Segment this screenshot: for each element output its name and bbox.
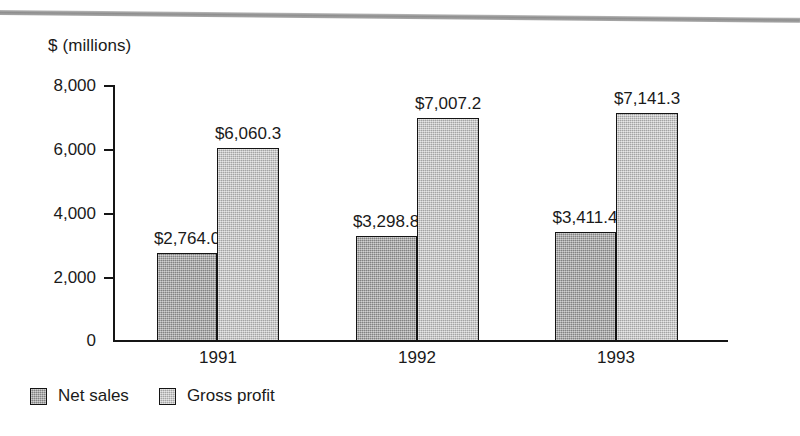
bar-1992-gross-profit[interactable] [417, 118, 479, 341]
bar-1993-gross-profit[interactable] [616, 113, 678, 341]
bar-label-1991-gross-profit: $6,060.3 [188, 124, 308, 144]
y-tick-label-0: 0 [10, 331, 96, 351]
y-tick-label-4000: 4,000 [10, 204, 96, 224]
plot-area: $2,764.0 $6,060.3 $3,298.8 $7,007.2 $3,4… [113, 86, 726, 341]
y-tick-label-6000: 6,000 [10, 140, 96, 160]
x-axis-label-1992: 1992 [357, 348, 477, 368]
bar-1992-net-sales[interactable] [356, 236, 417, 341]
y-tick-label-2000: 2,000 [10, 268, 96, 288]
bar-label-1992-gross-profit: $7,007.2 [388, 94, 508, 114]
y-tick-mark-2000 [104, 277, 113, 279]
legend-label-gross-profit: Gross profit [187, 386, 275, 406]
x-axis-label-1993: 1993 [556, 348, 676, 368]
legend-label-net-sales: Net sales [58, 386, 129, 406]
bar-1993-net-sales[interactable] [555, 232, 616, 341]
bar-label-1993-gross-profit: $7,141.3 [587, 89, 707, 109]
legend-item-gross-profit[interactable]: Gross profit [159, 386, 275, 406]
y-tick-label-8000: 8,000 [10, 76, 96, 96]
y-tick-mark-8000 [104, 85, 113, 87]
bar-1991-gross-profit[interactable] [217, 148, 279, 341]
gross-profit-swatch-icon [159, 388, 176, 405]
chart-legend: Net sales Gross profit [30, 386, 275, 406]
legend-item-net-sales[interactable]: Net sales [30, 386, 129, 406]
net-sales-swatch-icon [30, 388, 47, 405]
y-axis-title: $ (millions) [48, 36, 131, 56]
y-tick-mark-4000 [104, 213, 113, 215]
y-tick-mark-6000 [104, 149, 113, 151]
x-axis-label-1991: 1991 [158, 348, 278, 368]
bar-1991-net-sales[interactable] [157, 253, 217, 341]
